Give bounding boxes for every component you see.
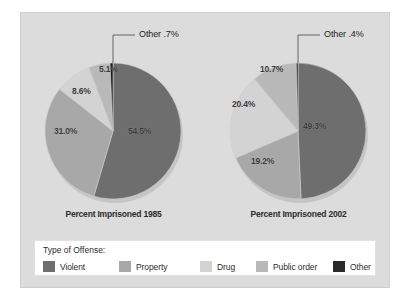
legend-swatch-icon (43, 261, 55, 272)
slice-percent-label: 54.5% (128, 126, 151, 136)
legend-swatch-icon (333, 261, 345, 272)
pie-chart-2002: Percent Imprisoned 2002 49.3%19.2%20.4%1… (206, 13, 391, 223)
pie-2002-title: Percent Imprisoned 2002 (206, 209, 391, 219)
legend-item-label: Drug (217, 262, 235, 272)
slice-percent-label: 8.6% (72, 86, 91, 96)
other-callout-leader-line (113, 35, 135, 63)
legend-item-property[interactable]: Property (119, 260, 167, 273)
slice-percent-label: 10.7% (260, 64, 283, 74)
slice-percent-label: 5.1% (99, 64, 118, 74)
legend-title: Type of Offense: (43, 245, 105, 255)
slice-percent-label: 31.0% (54, 126, 77, 136)
slice-percent-label: 19.2% (251, 156, 274, 166)
other-callout-label: Other .7% (139, 29, 179, 39)
legend-item-label: Property (136, 262, 167, 272)
legend-swatch-icon (119, 261, 131, 272)
pie-1985-svg (21, 13, 206, 209)
legend-swatch-icon (200, 261, 212, 272)
other-callout-leader-line (298, 35, 320, 63)
chart-panel: Percent Imprisoned 1985 54.5%31.0%8.6%5.… (20, 12, 390, 288)
slice-percent-label: 49.3% (303, 121, 326, 131)
legend-item-public-order[interactable]: Public order (256, 260, 317, 273)
pie-chart-1985: Percent Imprisoned 1985 54.5%31.0%8.6%5.… (21, 13, 206, 223)
other-callout-label: Other .4% (324, 29, 364, 39)
legend-swatch-icon (256, 261, 268, 272)
pie-1985-title: Percent Imprisoned 1985 (21, 209, 206, 219)
legend-item-label: Other (350, 262, 371, 272)
figure-root: Percent Imprisoned 1985 54.5%31.0%8.6%5.… (0, 0, 406, 306)
legend-item-other[interactable]: Other (333, 260, 371, 273)
legend-items: ViolentPropertyDrugPublic orderOther (43, 260, 373, 274)
legend-item-violent[interactable]: Violent (43, 260, 85, 273)
legend-item-drug[interactable]: Drug (200, 260, 235, 273)
legend-item-label: Public order (273, 262, 317, 272)
legend-item-label: Violent (60, 262, 85, 272)
slice-percent-label: 20.4% (232, 99, 255, 109)
pie-2002-svg (206, 13, 391, 209)
legend: Type of Offense: ViolentPropertyDrugPubl… (34, 240, 376, 276)
